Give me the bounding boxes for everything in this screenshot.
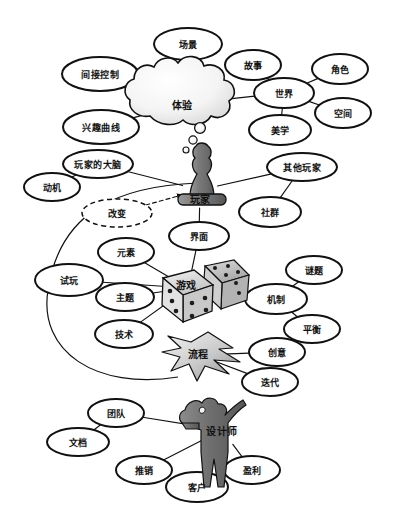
- hub-game-dice[interactable]: [162, 260, 249, 322]
- node-other-players[interactable]: [267, 153, 337, 181]
- node-world[interactable]: [254, 78, 314, 108]
- node-player-brain[interactable]: [63, 150, 133, 178]
- diagram-svg: [0, 0, 395, 529]
- edge-change-to-player: [146, 195, 183, 205]
- node-interface[interactable]: [169, 222, 229, 250]
- node-marketing[interactable]: [116, 456, 172, 484]
- node-theme[interactable]: [96, 283, 154, 311]
- edge-designer-to-profit: [233, 444, 242, 456]
- node-balance[interactable]: [284, 315, 340, 343]
- edge-other-players-to-community: [280, 180, 292, 197]
- node-documentation[interactable]: [47, 428, 109, 456]
- node-scene[interactable]: [154, 28, 222, 60]
- node-team[interactable]: [88, 399, 144, 427]
- node-motivation[interactable]: [24, 173, 80, 201]
- node-change[interactable]: [82, 199, 152, 227]
- edge-designer-to-marketing: [164, 438, 206, 460]
- node-interest-curve[interactable]: [63, 110, 139, 144]
- node-mechanics[interactable]: [245, 284, 307, 314]
- hub-process-arrow[interactable]: [162, 332, 240, 381]
- node-story[interactable]: [225, 50, 281, 80]
- edge-interface-to-game: [192, 250, 196, 270]
- node-iteration[interactable]: [242, 368, 298, 396]
- hub-experience-cloud[interactable]: [125, 57, 234, 153]
- node-playtesting[interactable]: [35, 264, 103, 296]
- node-creativity[interactable]: [249, 338, 305, 366]
- edge-world-to-character: [307, 78, 318, 83]
- node-elements[interactable]: [98, 238, 154, 266]
- node-community[interactable]: [239, 197, 301, 227]
- node-technology[interactable]: [95, 320, 153, 348]
- node-space[interactable]: [315, 98, 371, 128]
- node-puzzle[interactable]: [286, 256, 342, 284]
- node-aesthetics[interactable]: [249, 115, 311, 145]
- edge-player-to-other-players: [218, 174, 272, 186]
- diagram-canvas: 场景故事角色世界空间美学间接控制兴趣曲线玩家的大脑动机其他玩家社群改变界面元素试…: [0, 0, 395, 529]
- node-character[interactable]: [312, 54, 368, 84]
- edge-world-to-space: [309, 101, 320, 105]
- node-profit[interactable]: [224, 456, 280, 484]
- edge-player-to-player-brain: [128, 172, 183, 186]
- edge-world-to-aesthetics: [282, 108, 283, 115]
